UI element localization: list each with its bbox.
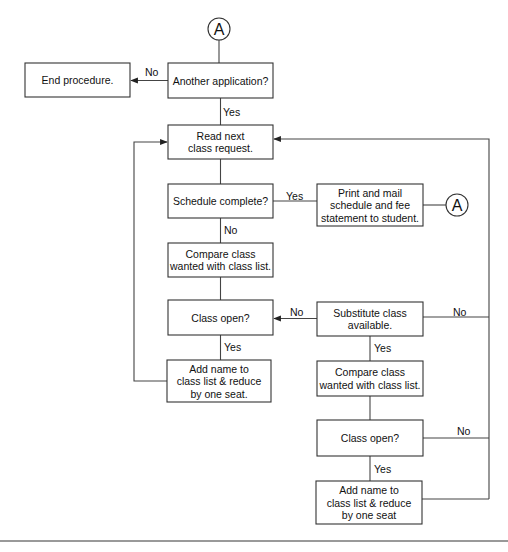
node-compare2: Compare classwanted with class list. xyxy=(317,361,423,396)
node-text-line: Read next xyxy=(197,130,245,142)
node-text-line: Compare class xyxy=(335,366,405,378)
edge-label-no: No xyxy=(224,224,238,236)
node-text-line: Another application? xyxy=(173,75,269,87)
node-add-name2: Add name toclass list & reduceby one sea… xyxy=(316,481,422,524)
edge-label-yes: Yes xyxy=(374,342,391,354)
flowchart-nodes: AAnother application?End procedure.Read … xyxy=(25,18,468,524)
node-text-line: Print and mail xyxy=(338,187,402,199)
connector-label: A xyxy=(214,21,225,38)
node-class-open2: Class open? xyxy=(317,420,423,456)
node-another-app: Another application? xyxy=(168,63,273,98)
node-text-line: Substitute class xyxy=(333,307,407,319)
node-text-line: Class open? xyxy=(191,312,250,324)
node-conn-top: A xyxy=(208,18,230,40)
node-text-line: class request. xyxy=(188,142,253,154)
node-read-next: Read nextclass request. xyxy=(168,125,273,159)
node-text-line: Schedule complete? xyxy=(173,195,268,207)
node-compare1: Compare classwanted with class list. xyxy=(168,243,273,277)
node-text-line: wanted with class list. xyxy=(169,260,271,272)
node-text-line: Add name to xyxy=(189,363,249,375)
node-text-line: End procedure. xyxy=(42,74,114,86)
node-text-line: class list & reduce xyxy=(327,497,412,509)
node-text-line: by one seat. xyxy=(190,388,247,400)
node-text-line: Compare class xyxy=(185,248,255,260)
edge-label-yes: Yes xyxy=(374,463,391,475)
edge-label-yes: Yes xyxy=(223,106,240,118)
flowchart: AAnother application?End procedure.Read … xyxy=(0,0,508,552)
node-sched-complete: Schedule complete? xyxy=(168,184,273,218)
edge-label-yes: Yes xyxy=(286,190,303,202)
node-add-name1: Add name toclass list & reduceby one sea… xyxy=(167,360,271,402)
node-text-line: wanted with class list. xyxy=(319,379,421,391)
edge-add-name-loop xyxy=(134,142,167,381)
node-class-open1: Class open? xyxy=(168,300,273,335)
edge-label-no: No xyxy=(145,66,159,78)
node-text-line: schedule and fee xyxy=(330,199,410,211)
edge-label-no: No xyxy=(453,306,467,318)
node-print-mail: Print and mailschedule and feestatement … xyxy=(317,184,423,226)
node-text-line: Class open? xyxy=(341,432,400,444)
connector-label: A xyxy=(452,197,463,214)
node-substitute: Substitute classavailable. xyxy=(317,302,423,336)
edge-label-yes: Yes xyxy=(224,341,241,353)
node-text-line: by one seat xyxy=(342,509,396,521)
node-conn-right: A xyxy=(446,194,468,216)
node-end: End procedure. xyxy=(25,63,130,97)
node-text-line: available. xyxy=(348,319,392,331)
node-text-line: class list & reduce xyxy=(177,375,262,387)
node-text-line: Add name to xyxy=(339,484,399,496)
edge-label-no: No xyxy=(457,425,471,437)
edge-label-no: No xyxy=(290,306,304,318)
node-text-line: statement to student. xyxy=(321,212,419,224)
